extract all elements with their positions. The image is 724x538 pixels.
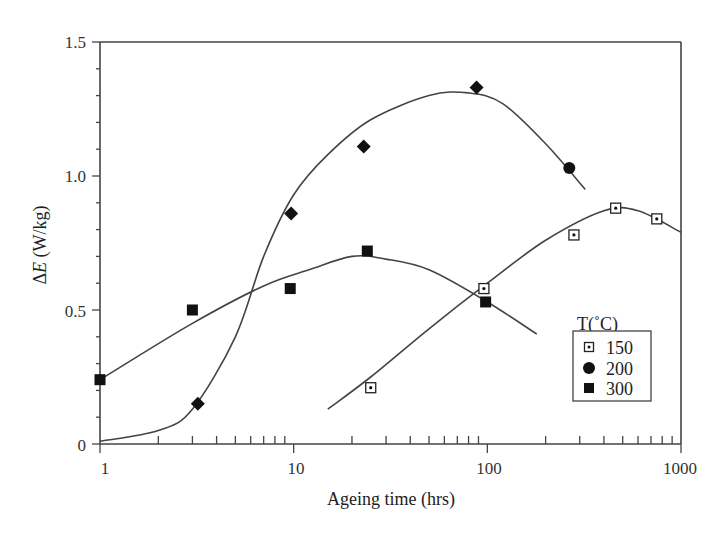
y-axis-delta: Δ bbox=[30, 273, 50, 285]
marker-150-icon bbox=[652, 214, 662, 224]
y-tick-label-0: 0 bbox=[78, 436, 87, 455]
x-tick-label-1000: 1000 bbox=[663, 459, 697, 478]
marker-300-icon bbox=[480, 296, 491, 307]
marker-300-icon bbox=[285, 283, 296, 294]
marker-150-icon bbox=[611, 203, 621, 213]
y-axis-variable: E bbox=[30, 262, 50, 274]
legend-marker-150-icon bbox=[585, 343, 594, 352]
legend: T(˚C) 150 200 300 bbox=[573, 314, 651, 401]
x-tick-label-10: 10 bbox=[288, 459, 305, 478]
y-tick-label-0.5: 0.5 bbox=[65, 302, 86, 321]
y-tick-label-1.0: 1.0 bbox=[65, 167, 86, 186]
legend-marker-200-icon bbox=[583, 362, 595, 374]
chart-canvas: 1.5 1.0 0.5 0 1 10 100 1000 Ageing time … bbox=[0, 0, 724, 538]
marker-300-icon bbox=[95, 374, 106, 385]
y-axis-title: ΔE (W/kg) bbox=[30, 205, 51, 284]
x-tick-label-100: 100 bbox=[476, 459, 502, 478]
y-tick-label-1.5: 1.5 bbox=[65, 33, 86, 52]
legend-label-200: 200 bbox=[606, 359, 633, 379]
marker-150-icon bbox=[569, 230, 579, 240]
marker-300-icon bbox=[187, 305, 198, 316]
marker-150-icon bbox=[479, 284, 489, 294]
marker-200-diamond-icon bbox=[357, 140, 371, 154]
marker-150-icon bbox=[366, 383, 376, 393]
x-axis-title: Ageing time (hrs) bbox=[327, 489, 455, 510]
y-axis-unit: (W/kg) bbox=[30, 205, 51, 261]
marker-300-icon bbox=[362, 246, 373, 257]
fit-curve-300 bbox=[100, 256, 537, 380]
fit-curve-200 bbox=[100, 92, 585, 441]
legend-label-300: 300 bbox=[606, 379, 633, 399]
x-tick-label-1: 1 bbox=[101, 459, 110, 478]
marker-200-circle-icon bbox=[563, 162, 575, 174]
legend-marker-300-icon bbox=[584, 383, 594, 393]
legend-label-150: 150 bbox=[606, 338, 633, 358]
